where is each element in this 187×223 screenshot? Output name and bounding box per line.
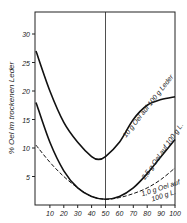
y-axis-label: % Oel im trockenen Leder: [7, 61, 16, 154]
annotation-2-5g: 2,5 g Oel auf 100 g L.: [140, 121, 186, 182]
x-tick-label: 30: [74, 210, 82, 217]
y-tick-label: 15: [22, 117, 30, 124]
y-tick-label: 20: [21, 88, 30, 95]
x-tick-label: 100: [169, 210, 181, 217]
annotation-1-0g: 1,0 g Oel auf 100 g L.: [140, 178, 185, 206]
y-tick-label: 25: [21, 60, 30, 67]
x-axis-ticks: 102030405060708090100: [46, 205, 181, 217]
y-tick-label: 5: [26, 174, 30, 181]
x-tick-label: 60: [116, 210, 124, 217]
x-tick-label: 80: [143, 210, 151, 217]
y-tick-label: 10: [22, 145, 30, 152]
annotation-10g: 10 g Oel auf 100 g Leder: [121, 73, 175, 139]
x-tick-label: 40: [88, 210, 96, 217]
oil-content-chart: 51015202530 102030405060708090100 % Oel …: [0, 0, 187, 223]
plot-frame: [35, 12, 175, 205]
y-tick-label: 30: [22, 31, 30, 38]
x-tick-label: 10: [46, 210, 54, 217]
x-tick-label: 70: [129, 210, 137, 217]
x-tick-label: 90: [157, 210, 165, 217]
x-tick-label: 50: [102, 210, 110, 217]
y-axis-ticks: 51015202530: [21, 31, 35, 181]
x-tick-label: 20: [59, 210, 68, 217]
